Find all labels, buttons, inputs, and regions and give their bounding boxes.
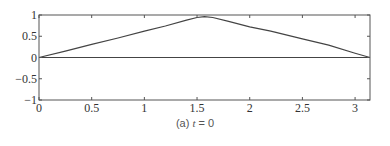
x-tick-label: 2 [247, 101, 253, 115]
y-tick-label: −0.5 [15, 72, 37, 86]
y-tick-label: 1 [31, 8, 37, 22]
caption-prefix: (a) [176, 117, 189, 129]
caption-equals: = 0 [199, 117, 215, 129]
x-tick-label: 2.5 [295, 101, 310, 115]
caption-variable: t [192, 117, 195, 129]
x-tick-label: 3 [352, 101, 358, 115]
figure-caption: (a) t = 0 [0, 117, 390, 129]
x-tick-label: 1 [141, 101, 147, 115]
data-series-line [39, 17, 370, 58]
x-tick-label: 0.5 [84, 101, 99, 115]
x-tick-label: 1.5 [190, 101, 205, 115]
y-tick-label: −1 [24, 93, 37, 107]
plot-area [39, 17, 370, 58]
y-tick-label: 0 [31, 51, 37, 65]
y-tick-label: 0.5 [22, 29, 37, 43]
